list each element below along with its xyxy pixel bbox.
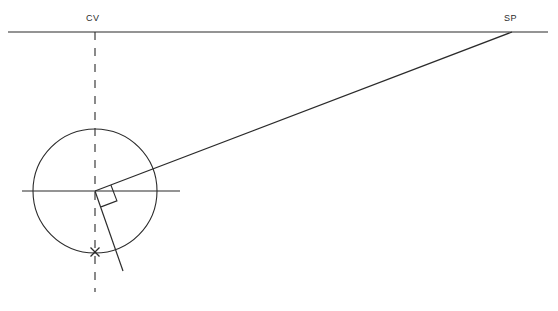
right-angle-marker (95, 185, 117, 207)
label-center-of-vision: CV (86, 13, 99, 23)
sight-line-to-station-point (95, 32, 512, 191)
perspective-diagram: CV SP (0, 0, 558, 311)
perpendicular-ray (95, 191, 123, 271)
x-mark (91, 248, 100, 257)
diagram-canvas (0, 0, 558, 311)
label-station-point: SP (504, 13, 517, 23)
